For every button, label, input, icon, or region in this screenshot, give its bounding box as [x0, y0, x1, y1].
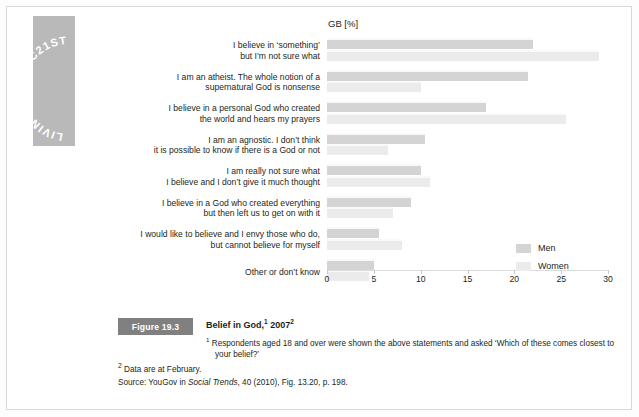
category-label: I am really not sure whatI believe and I… [114, 166, 320, 187]
axis-units-label: GB [%] [328, 18, 358, 29]
category-label: I believe in a God who created everythin… [114, 198, 320, 219]
footnote-2: 2 Data are at February. [118, 360, 623, 375]
axis-tick-label: 30 [603, 274, 613, 284]
category-row: I believe in a God who created everythin… [118, 194, 324, 226]
figure-number-badge: Figure 19.3 [118, 318, 193, 335]
legend-label: Women [538, 261, 569, 271]
sidebar-arc-text: LIVING IN THE C21ST [33, 16, 75, 146]
bar-men [327, 198, 411, 207]
page-root: LIVING IN THE C21ST GB [%] I believe in … [0, 0, 639, 417]
footnote-2-wrap: 2 Data are at February. [118, 360, 623, 375]
bar-group [327, 134, 608, 159]
bar-women [327, 241, 402, 250]
legend-swatch-icon [516, 244, 531, 253]
bar-women [327, 209, 393, 218]
bar-men [327, 166, 421, 175]
chart-legend: MenWomen [516, 243, 569, 279]
bar-men [327, 261, 374, 270]
bar-row [327, 194, 608, 226]
bar-men [327, 103, 486, 112]
bar-men [327, 40, 533, 49]
category-row: I am really not sure whatI believe and I… [118, 162, 324, 194]
bar-group [327, 71, 608, 96]
bar-women [327, 146, 388, 155]
category-row: I would like to believe and I envy those… [118, 225, 324, 257]
axis-tick-label: 0 [325, 274, 330, 284]
category-label: I believe in ‘something’but I’m not sure… [114, 40, 320, 61]
bar-women [327, 52, 599, 61]
category-row: I am an agnostic. I don’t thinkit is pos… [118, 131, 324, 163]
category-label: I believe in a personal God who createdt… [114, 103, 320, 124]
sidebar-label-text: LIVING IN THE C21ST [33, 34, 68, 144]
category-row: I believe in a personal God who createdt… [118, 99, 324, 131]
caption-text: Belief in God,1 20072 1 Respondents aged… [206, 318, 621, 363]
bar-row [327, 162, 608, 194]
category-row: Other or don’t know [118, 257, 324, 289]
category-label: I would like to believe and I envy those… [114, 229, 320, 250]
bar-men [327, 229, 379, 238]
bar-group [327, 39, 608, 64]
bar-row [327, 36, 608, 68]
sidebar-tab: LIVING IN THE C21ST [33, 16, 75, 146]
axis-tick-label: 15 [463, 274, 473, 284]
source-line: Source: YouGov in Social Trends, 40 (201… [118, 378, 348, 387]
legend-swatch-icon [516, 262, 531, 271]
legend-item-men: Men [516, 243, 569, 253]
bar-women [327, 115, 566, 124]
bar-men [327, 135, 425, 144]
sidebar-label: LIVING IN THE C21ST [33, 34, 68, 144]
figure-title: Belief in God,1 20072 [206, 318, 621, 330]
footnote-1: 1 Respondents aged 18 and over were show… [206, 334, 621, 360]
category-label: I am an atheist. The whole notion of asu… [114, 72, 320, 93]
axis-tick-label: 5 [371, 274, 376, 284]
bar-row [327, 131, 608, 163]
bar-group [327, 102, 608, 127]
bar-group [327, 197, 608, 222]
bar-row [327, 99, 608, 131]
bar-women [327, 83, 421, 92]
bar-group [327, 165, 608, 190]
category-label: I am an agnostic. I don’t thinkit is pos… [114, 135, 320, 156]
bar-men [327, 72, 528, 81]
category-row: I believe in ‘something’but I’m not sure… [118, 36, 324, 68]
category-label: Other or don’t know [114, 267, 320, 278]
category-labels-column: I believe in ‘something’but I’m not sure… [118, 36, 324, 288]
axis-tick-label: 10 [416, 274, 426, 284]
bar-row [327, 68, 608, 100]
legend-label: Men [538, 243, 556, 253]
legend-item-women: Women [516, 261, 569, 271]
category-row: I am an atheist. The whole notion of asu… [118, 68, 324, 100]
bar-women [327, 178, 430, 187]
